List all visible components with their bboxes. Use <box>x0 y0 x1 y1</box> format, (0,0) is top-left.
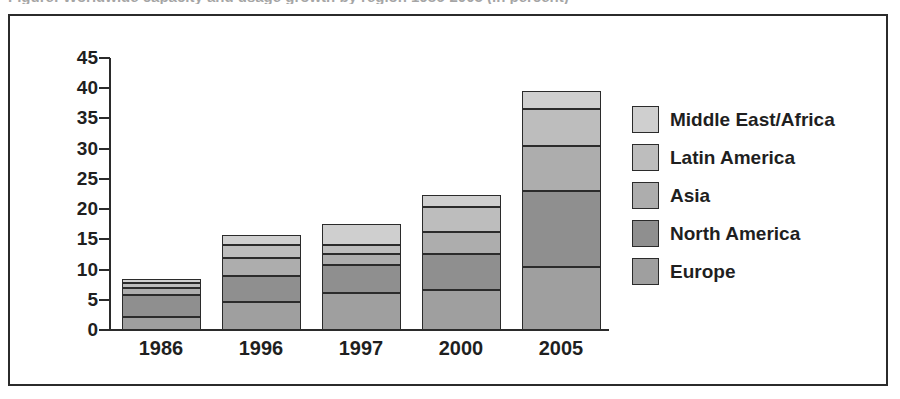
y-axis-tick-label: 45 <box>50 48 98 67</box>
bar-segment-asia[interactable] <box>422 232 501 254</box>
chart-legend: Middle East/AfricaLatin AmericaAsiaNorth… <box>632 100 882 290</box>
x-axis-tick-label-1986: 1986 <box>106 338 216 358</box>
y-axis-tick-label: 15 <box>50 229 98 248</box>
x-axis-tick-label-2005: 2005 <box>506 338 616 358</box>
chart-page: Figure: Worldwide capacity and usage gro… <box>0 0 900 399</box>
y-axis-tick-label: 35 <box>50 108 98 127</box>
bar-segment-middle-east-africa[interactable] <box>422 195 501 207</box>
bar-segment-europe[interactable] <box>422 290 501 330</box>
legend-swatch-icon <box>632 258 659 285</box>
bar-segment-europe[interactable] <box>122 317 201 330</box>
bar-segment-asia[interactable] <box>222 258 301 276</box>
bar-segment-latin-america[interactable] <box>222 245 301 258</box>
bar-1996[interactable] <box>222 235 301 330</box>
bars-layer <box>109 58 609 330</box>
chart-frame: 051015202530354045 19861996199720002005 … <box>8 14 888 386</box>
bar-segment-north-america[interactable] <box>422 254 501 290</box>
legend-item-label: Latin America <box>670 148 795 167</box>
bar-segment-middle-east-africa[interactable] <box>122 279 201 283</box>
bar-segment-north-america[interactable] <box>522 191 601 267</box>
y-axis-tick-label: 25 <box>50 169 98 188</box>
legend-swatch-icon <box>632 182 659 209</box>
bar-2005[interactable] <box>522 91 601 330</box>
bar-segment-asia[interactable] <box>322 254 401 265</box>
bar-segment-north-america[interactable] <box>222 276 301 301</box>
bar-1997[interactable] <box>322 224 401 330</box>
legend-item-middle-east-africa[interactable]: Middle East/Africa <box>632 100 882 138</box>
legend-item-label: Europe <box>670 262 735 281</box>
bar-segment-middle-east-africa[interactable] <box>322 224 401 245</box>
legend-item-asia[interactable]: Asia <box>632 176 882 214</box>
y-axis-tick-label: 40 <box>50 78 98 97</box>
y-axis-tick-label: 10 <box>50 260 98 279</box>
legend-swatch-icon <box>632 144 659 171</box>
legend-swatch-icon <box>632 220 659 247</box>
bar-2000[interactable] <box>422 195 501 330</box>
y-axis-tick-label: 20 <box>50 199 98 218</box>
figure-caption: Figure: Worldwide capacity and usage gro… <box>8 0 748 4</box>
legend-item-europe[interactable]: Europe <box>632 252 882 290</box>
x-axis-tick-label-1996: 1996 <box>206 338 316 358</box>
y-axis-tick-label: 0 <box>50 320 98 339</box>
bar-segment-europe[interactable] <box>322 293 401 330</box>
legend-item-north-america[interactable]: North America <box>632 214 882 252</box>
legend-item-label: North America <box>670 224 800 243</box>
legend-swatch-icon <box>632 106 659 133</box>
legend-item-label: Asia <box>670 186 710 205</box>
bar-segment-middle-east-africa[interactable] <box>522 91 601 109</box>
bar-segment-latin-america[interactable] <box>322 245 401 255</box>
bar-segment-north-america[interactable] <box>122 295 201 317</box>
bar-segment-latin-america[interactable] <box>522 109 601 145</box>
y-axis-tick-label: 30 <box>50 139 98 158</box>
bar-segment-latin-america[interactable] <box>122 283 201 288</box>
legend-item-label: Middle East/Africa <box>670 110 835 129</box>
x-axis-tick-label-1997: 1997 <box>306 338 416 358</box>
bar-segment-europe[interactable] <box>222 302 301 330</box>
y-axis-tick-label: 5 <box>50 290 98 309</box>
bar-segment-middle-east-africa[interactable] <box>222 235 301 245</box>
legend-item-latin-america[interactable]: Latin America <box>632 138 882 176</box>
bar-1986[interactable] <box>122 279 201 330</box>
bar-segment-europe[interactable] <box>522 267 601 330</box>
bar-segment-asia[interactable] <box>122 288 201 295</box>
bar-segment-asia[interactable] <box>522 146 601 191</box>
bar-segment-latin-america[interactable] <box>422 207 501 232</box>
x-axis-tick-label-2000: 2000 <box>406 338 516 358</box>
bar-segment-north-america[interactable] <box>322 265 401 293</box>
